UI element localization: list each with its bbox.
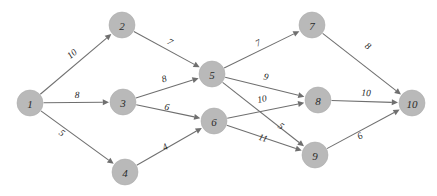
graph-canvas: 12345678910 1085786479510118106 — [0, 0, 437, 196]
edge-n1-to-n2 — [40, 38, 106, 94]
edge-n7-to-n10 — [323, 33, 396, 90]
edge-n9-to-n10 — [327, 113, 394, 149]
edge-n1-to-n3 — [44, 102, 103, 103]
edge-weight-n6-to-n8: 10 — [256, 93, 268, 105]
arrowhead-n8-to-n10 — [392, 99, 398, 105]
node-label-10: 10 — [407, 98, 419, 110]
edge-weight-n3-to-n6: 6 — [164, 102, 171, 113]
node-1[interactable]: 1 — [17, 90, 43, 116]
edge-n8-to-n10 — [331, 100, 391, 102]
edge-weight-n1-to-n4: 5 — [57, 128, 67, 139]
edge-weight-n5-to-n9: 5 — [276, 121, 286, 132]
arrowhead-n1-to-n4 — [107, 158, 114, 164]
edge-weight-n6-to-n9: 11 — [257, 132, 269, 144]
edges-layer — [40, 31, 401, 165]
edge-n2-to-n5 — [134, 31, 194, 64]
node-label-3: 3 — [119, 97, 126, 109]
arrowhead-n5-to-n8 — [298, 92, 305, 98]
edge-weight-n5-to-n7: 7 — [254, 37, 264, 49]
edge-n5-to-n7 — [224, 34, 294, 68]
node-label-2: 2 — [119, 20, 125, 32]
node-3[interactable]: 3 — [110, 89, 136, 115]
node-label-7: 7 — [309, 20, 315, 32]
edge-weight-n1-to-n2: 10 — [65, 47, 79, 61]
edge-weight-n8-to-n10: 10 — [361, 88, 371, 98]
node-8[interactable]: 8 — [305, 87, 331, 113]
edge-n1-to-n4 — [41, 111, 109, 160]
edge-weight-n9-to-n10: 6 — [356, 130, 365, 141]
node-4[interactable]: 4 — [112, 159, 138, 185]
edge-weight-n5-to-n8: 9 — [263, 72, 270, 83]
node-label-1: 1 — [27, 98, 33, 110]
node-6[interactable]: 6 — [201, 108, 227, 134]
edge-weight-n3-to-n5: 8 — [160, 73, 168, 84]
node-5[interactable]: 5 — [199, 61, 225, 87]
node-2[interactable]: 2 — [109, 12, 135, 38]
edge-n6-to-n8 — [227, 104, 298, 118]
node-9[interactable]: 9 — [302, 142, 328, 168]
node-label-5: 5 — [209, 69, 215, 81]
node-label-4: 4 — [122, 167, 128, 179]
node-label-6: 6 — [211, 116, 217, 128]
arrowhead-n7-to-n10 — [394, 88, 401, 94]
arrowhead-n5-to-n9 — [297, 140, 304, 146]
arrowhead-n1-to-n3 — [103, 99, 109, 105]
node-7[interactable]: 7 — [299, 12, 325, 38]
arrowhead-n6-to-n8 — [298, 101, 305, 107]
node-label-9: 9 — [312, 150, 318, 162]
node-label-8: 8 — [315, 95, 321, 107]
arrowhead-n3-to-n5 — [192, 77, 199, 83]
network-diagram: 12345678910 1085786479510118106 — [0, 0, 437, 196]
edge-weight-n1-to-n3: 8 — [75, 90, 80, 100]
arrowhead-n3-to-n6 — [194, 114, 201, 120]
arrowhead-n6-to-n9 — [295, 146, 302, 152]
edge-weight-n7-to-n10: 8 — [363, 41, 373, 52]
edge-weight-n2-to-n5: 7 — [166, 36, 176, 48]
node-10[interactable]: 10 — [399, 90, 425, 116]
